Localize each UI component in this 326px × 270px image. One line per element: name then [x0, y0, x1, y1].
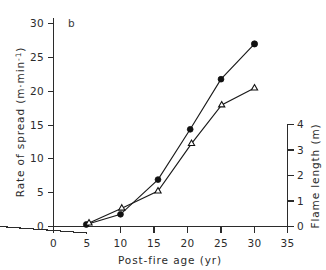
data-point-open-triangle	[119, 205, 125, 210]
right-tick-label-1: 1	[297, 195, 304, 207]
panel-label: b	[68, 17, 75, 29]
series-flame-length	[86, 85, 258, 225]
data-point-open-triangle	[86, 220, 92, 225]
right-axis-tick-labels: 0 1 2 3 4	[297, 118, 304, 232]
x-axis-tick-labels: 0 5 10 15 20 25 30 35	[50, 237, 294, 249]
y-axis-title-superscript: -1	[14, 52, 23, 61]
data-point-filled-circle	[251, 41, 257, 47]
x-tick-label-30: 30	[248, 237, 262, 249]
data-point-open-triangle	[219, 102, 225, 107]
left-tick-label-15: 15	[30, 119, 44, 131]
y2-axis-title: Flame length (m)	[309, 123, 321, 228]
right-tick-label-3: 3	[297, 144, 304, 156]
right-tick-label-2: 2	[297, 169, 304, 181]
x-tick-label-20: 20	[181, 237, 195, 249]
x-tick-label-10: 10	[114, 237, 128, 249]
left-axis-ticks	[48, 24, 54, 227]
x-tick-label-35: 35	[281, 237, 295, 249]
left-tick-label-30: 30	[30, 17, 44, 29]
left-tick-label-5: 5	[37, 186, 44, 198]
x-tick-label-25: 25	[214, 237, 228, 249]
right-axis-ticks	[288, 125, 294, 227]
data-point-filled-circle	[187, 126, 193, 132]
x-tick-label-15: 15	[147, 237, 161, 249]
data-point-open-triangle	[251, 85, 257, 90]
chart-svg: 0 5 10 15 20 25 30 0 5 10 15 20 25 30	[0, 0, 326, 270]
right-tick-label-4: 4	[297, 118, 304, 130]
x-tick-label-0: 0	[50, 237, 57, 249]
x-tick-label-5: 5	[84, 237, 91, 249]
y-axis-title-tail: )	[14, 47, 26, 52]
left-tick-label-20: 20	[30, 85, 44, 97]
series-rate-of-spread	[83, 41, 257, 228]
left-tick-label-25: 25	[30, 51, 44, 63]
y-axis-title: Rate of spread (m·min-1)	[14, 47, 27, 198]
figure-panel-b: 0 5 10 15 20 25 30 0 5 10 15 20 25 30	[0, 0, 326, 270]
series-flame-length-line	[89, 88, 255, 223]
left-tick-label-10: 10	[30, 152, 44, 164]
series-rate-of-spread-line	[86, 44, 254, 225]
data-point-filled-circle	[218, 76, 224, 82]
x-axis-title: Post-fire age (yr)	[118, 254, 222, 266]
data-point-filled-circle	[155, 177, 161, 183]
data-point-filled-circle	[118, 211, 124, 217]
left-axis-tick-labels: 0 5 10 15 20 25 30	[30, 17, 44, 232]
y-axis-title-main: Rate of spread (m·min	[14, 61, 26, 197]
right-tick-label-0: 0	[297, 220, 304, 232]
